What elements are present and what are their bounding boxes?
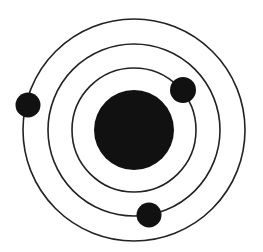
atom-diagram bbox=[0, 0, 263, 252]
electron-outer bbox=[16, 93, 41, 118]
electron-middle bbox=[137, 203, 162, 228]
nucleus bbox=[94, 90, 174, 170]
electron-inner bbox=[170, 77, 196, 103]
